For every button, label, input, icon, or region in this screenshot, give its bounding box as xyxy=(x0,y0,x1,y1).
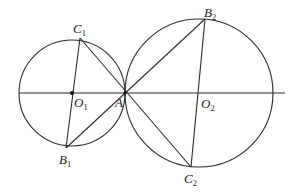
geometry-diagram: C1 O1 B1 A B2 O2 C2 xyxy=(0,0,298,194)
label-o2: O2 xyxy=(201,96,215,113)
segment-b1-b2 xyxy=(66,19,205,148)
segment-c1-c2 xyxy=(80,38,191,167)
label-o1: O1 xyxy=(74,95,88,112)
label-a: A xyxy=(114,95,123,110)
label-c2: C2 xyxy=(184,171,197,188)
label-b1: B1 xyxy=(59,152,71,169)
point-a xyxy=(123,91,126,94)
label-b2: B2 xyxy=(204,5,216,22)
label-c1: C1 xyxy=(73,21,86,38)
